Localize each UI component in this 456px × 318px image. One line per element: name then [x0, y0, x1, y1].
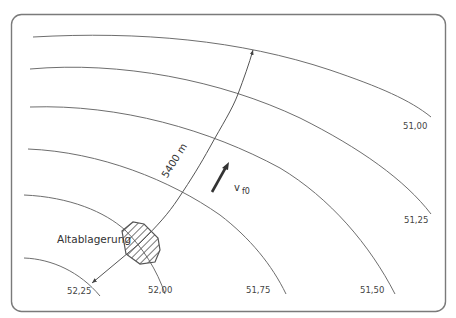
contour-map	[0, 0, 456, 318]
contour-label-51-75: 51,75	[246, 286, 270, 295]
flow-symbol: v	[234, 182, 240, 193]
contour-51-75	[28, 149, 286, 294]
contour-51-00	[33, 35, 431, 117]
flow-direction-arrow	[212, 167, 226, 192]
contour-label-51-00: 51,00	[403, 122, 427, 131]
site-label: Altablagerung	[57, 234, 131, 245]
contour-label-51-25: 51,25	[404, 216, 428, 225]
diagram-canvas: Altablagerung 5400 m vf0 51,00 51,25 51,…	[0, 0, 456, 318]
flow-subscript: f0	[242, 187, 250, 196]
contour-label-51-50: 51,50	[360, 286, 384, 295]
contour-label-52-25: 52,25	[67, 287, 91, 296]
flow-arrowhead-icon	[222, 162, 229, 170]
contour-label-52-00: 52,00	[148, 286, 172, 295]
contour-51-50	[30, 107, 395, 294]
flow-velocity-label: vf0	[234, 182, 250, 196]
contour-51-25	[30, 67, 431, 214]
distance-line-lower	[92, 243, 140, 283]
